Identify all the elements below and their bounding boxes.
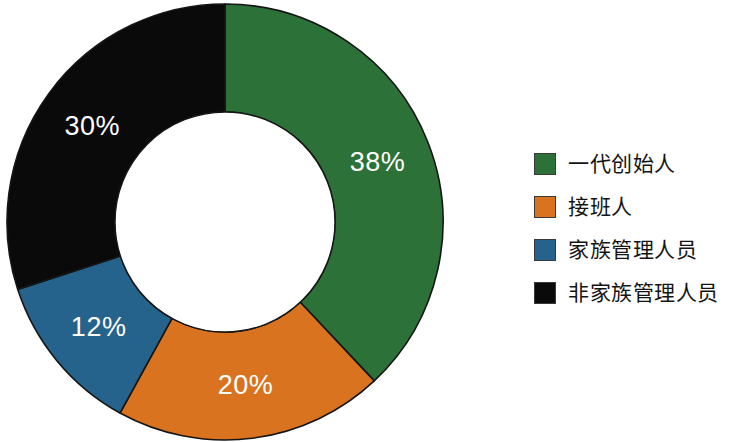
legend-item[interactable]: 一代创始人 (534, 148, 730, 179)
legend-item-label: 接班人 (568, 196, 633, 217)
donut-hole (115, 112, 335, 332)
legend-item-label: 非家族管理人员 (568, 282, 719, 303)
legend-item-label: 家族管理人员 (568, 239, 697, 260)
legend-item[interactable]: 接班人 (534, 191, 730, 222)
slice-value-label: 12% (71, 312, 127, 342)
legend-item[interactable]: 家族管理人员 (534, 234, 730, 265)
slice-value-label: 30% (65, 111, 121, 141)
donut-chart-svg: 38%20%12%30% (0, 0, 460, 442)
legend-item-label: 一代创始人 (568, 153, 676, 174)
slice-value-label: 38% (350, 147, 406, 177)
donut-chart-plot-area: 38%20%12%30% (0, 0, 460, 442)
legend-swatch-icon (534, 153, 556, 175)
chart-legend: 一代创始人接班人家族管理人员非家族管理人员 (534, 148, 730, 308)
slice-value-label: 20% (218, 370, 274, 400)
donut-chart-figure: 38%20%12%30% 一代创始人接班人家族管理人员非家族管理人员 (0, 0, 730, 442)
legend-swatch-icon (534, 282, 556, 304)
legend-swatch-icon (534, 196, 556, 218)
legend-item[interactable]: 非家族管理人员 (534, 277, 730, 308)
legend-swatch-icon (534, 239, 556, 261)
